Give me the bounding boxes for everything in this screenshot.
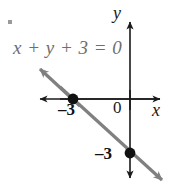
- origin-label: 0: [113, 99, 122, 116]
- equation-line-group: [40, 69, 162, 180]
- x-intercept-label: –3: [58, 101, 75, 118]
- x-axis-label: x: [152, 101, 160, 119]
- graph-figure: x + y + 3 = 0 y x 0 –3 –3: [0, 0, 169, 185]
- point-y-intercept: [125, 148, 136, 159]
- y-intercept-label: –3: [95, 145, 112, 162]
- y-axis-label: y: [113, 4, 121, 22]
- graph-canvas: [0, 0, 169, 185]
- equation-label: x + y + 3 = 0: [13, 38, 122, 57]
